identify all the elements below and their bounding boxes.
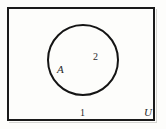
- venn-diagram-figure: A 2 1 U: [0, 0, 166, 129]
- universal-set-label: U: [144, 107, 152, 118]
- set-a-circle: [47, 24, 119, 96]
- region-1-label: 1: [80, 108, 85, 118]
- set-a-label: A: [57, 64, 64, 75]
- region-2-label: 2: [93, 52, 98, 62]
